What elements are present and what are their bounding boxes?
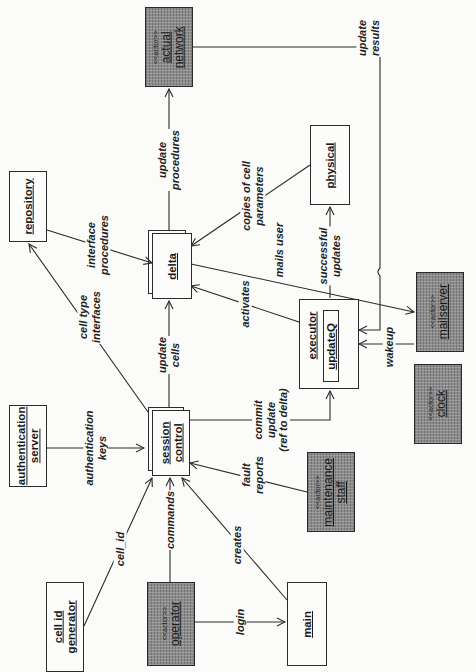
label-update-results: updateresults — [356, 19, 381, 57]
label-copies-of-cell-parameters: copies of cellparameters — [240, 160, 265, 232]
label-fault-reports: faultreports — [240, 455, 265, 495]
label-mails-user: mails user — [273, 222, 286, 278]
edge-update-results — [193, 47, 380, 330]
object-executor[interactable]: executor updateQ — [299, 299, 359, 389]
actor-maintenance-staff[interactable]: <<actor>> maintenance staff — [307, 452, 355, 532]
actor-actual-network[interactable]: <<actor>> actual network — [145, 7, 193, 87]
object-main[interactable]: main — [287, 582, 327, 666]
actor-mailserver[interactable]: <<actor>> mailserver — [416, 272, 464, 352]
label-update-cells: updatecells — [156, 336, 181, 374]
inner-object-updateQ[interactable]: updateQ — [323, 310, 339, 382]
object-authentication-server[interactable]: authentication server — [9, 405, 47, 487]
label-cell-type-interfaces: cell typeinterfaces — [77, 290, 102, 344]
label-interface-procedures: interfaceprocedures — [85, 214, 110, 276]
multiobject-delta[interactable]: delta — [152, 233, 192, 299]
actor-operator[interactable]: <<actor>> operator — [147, 582, 195, 666]
label-wakeup: wakeup — [383, 326, 396, 368]
object-physical[interactable]: physical — [310, 125, 350, 205]
label-activates: activates — [239, 279, 252, 328]
label-authentication-keys: authenticationkeys — [83, 409, 108, 486]
label-cell-id: cell_id — [114, 531, 127, 567]
label-commit-update: commitupdate(ref to delta) — [252, 387, 290, 453]
label-successful-updates: successfulupdates — [317, 227, 342, 286]
object-repository[interactable]: repository — [9, 171, 47, 242]
object-cell-id-generator[interactable]: cell id generator — [46, 582, 84, 672]
actor-clock[interactable]: <<actor>> clock — [414, 364, 462, 444]
label-login: login — [234, 608, 247, 636]
multiobject-session-control[interactable]: session control — [152, 410, 190, 476]
label-creates: creates — [231, 525, 244, 566]
label-commands: commands — [164, 490, 177, 550]
label-update-procedures: updateprocedures — [156, 129, 181, 191]
